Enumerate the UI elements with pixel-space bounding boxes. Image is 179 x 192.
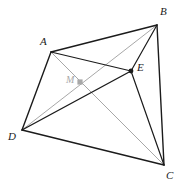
vertex-label-D: D — [8, 131, 16, 142]
segment-BC — [157, 25, 164, 165]
vertex-label-B: B — [160, 6, 167, 17]
vertex-label-C: C — [166, 170, 173, 181]
segment-DE — [22, 71, 131, 130]
segment-AB — [51, 25, 157, 52]
vertex-marker-E — [129, 69, 134, 74]
vertex-label-A: A — [40, 36, 47, 47]
vertex-label-E: E — [137, 62, 144, 73]
segment-BE — [131, 25, 157, 71]
geometry-canvas — [0, 0, 179, 192]
segment-CD — [22, 130, 164, 165]
segment-AC — [51, 52, 164, 165]
geometry-figure: ABCDEM — [0, 0, 179, 192]
vertex-marker-M — [77, 79, 82, 84]
vertex-marker-layer — [77, 69, 133, 85]
vertex-label-M: M — [66, 75, 74, 85]
segment-CE — [131, 71, 164, 165]
